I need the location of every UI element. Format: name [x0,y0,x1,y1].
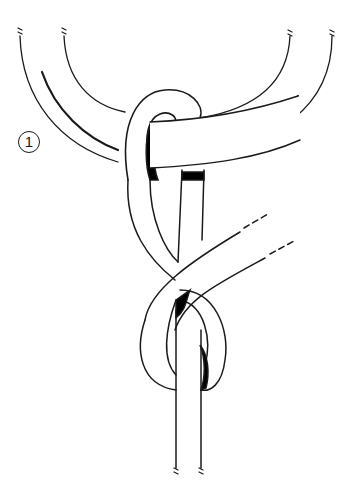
knot-diagram [0,0,364,502]
working-end [145,214,296,330]
figure-eight-knot [140,290,225,390]
